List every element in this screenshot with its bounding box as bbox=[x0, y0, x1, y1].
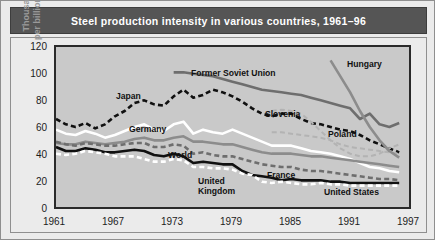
chart-figure: Thousands of tonnes per billion dollars … bbox=[10, 37, 427, 233]
series-label-hungary: Hungary bbox=[347, 60, 382, 70]
x-tick-1991: 1991 bbox=[326, 216, 372, 227]
series-label-world: World bbox=[168, 151, 192, 161]
series-label-poland: Poland bbox=[328, 130, 357, 140]
x-tick-1961: 1961 bbox=[31, 216, 77, 227]
page-title: Steel production intensity in various co… bbox=[71, 15, 366, 27]
series-label-japan: Japan bbox=[116, 92, 141, 102]
chart-title-bar: Steel production intensity in various co… bbox=[10, 7, 427, 34]
series-label-united-kingdom: United Kingdom bbox=[198, 177, 235, 196]
x-tick-1967: 1967 bbox=[90, 216, 136, 227]
series-label-united-states: United States bbox=[324, 188, 379, 198]
series-label-former-soviet-union: Former Soviet Union bbox=[191, 69, 276, 79]
x-tick-1979: 1979 bbox=[208, 216, 254, 227]
series-label-france: France bbox=[267, 171, 295, 181]
chart-figure-root: Steel production intensity in various co… bbox=[0, 0, 435, 240]
plot-area: Japan Germany World Former Soviet Union … bbox=[54, 45, 411, 209]
x-tick-1985: 1985 bbox=[267, 216, 313, 227]
series-line-hungary bbox=[331, 60, 400, 157]
series-label-germany: Germany bbox=[129, 125, 166, 135]
x-tick-1973: 1973 bbox=[149, 216, 195, 227]
x-tick-1997: 1997 bbox=[385, 216, 431, 227]
series-label-slovenia: Slovenia bbox=[265, 110, 300, 120]
